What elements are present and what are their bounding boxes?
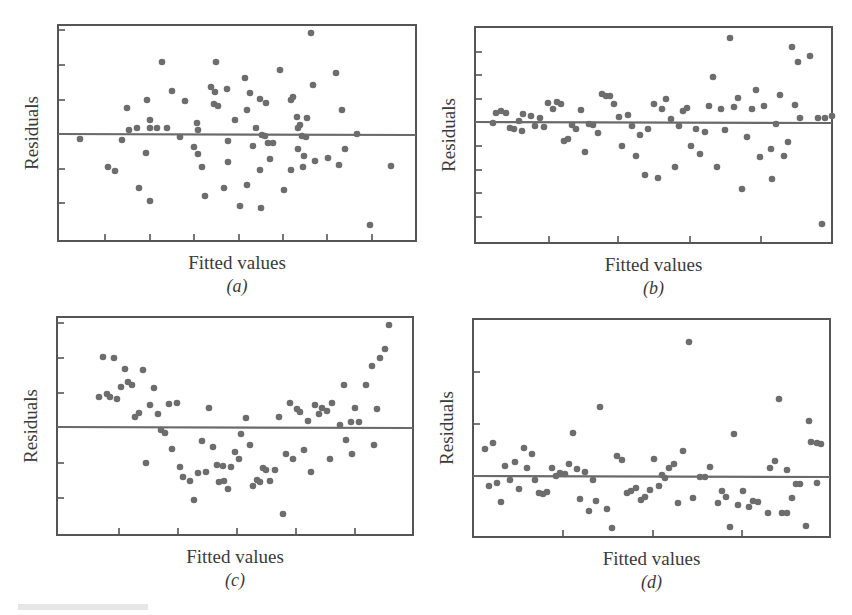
- data-point: [212, 89, 219, 96]
- data-point: [310, 82, 317, 89]
- data-point: [753, 87, 760, 94]
- data-point: [772, 458, 779, 465]
- panel-label: (a): [227, 276, 248, 297]
- data-point: [524, 465, 531, 472]
- data-point: [789, 44, 796, 51]
- panel-c: ResidualsFitted values(c): [20, 317, 413, 591]
- data-point: [136, 410, 143, 417]
- data-point: [272, 467, 279, 474]
- data-point: [577, 496, 584, 503]
- data-point: [642, 494, 649, 501]
- data-point: [629, 123, 636, 130]
- data-point: [388, 163, 395, 170]
- data-point: [511, 126, 518, 133]
- data-point: [213, 59, 220, 66]
- data-point: [597, 404, 604, 411]
- data-point: [647, 487, 654, 494]
- data-point: [702, 129, 709, 136]
- data-point: [595, 130, 602, 137]
- data-point: [270, 140, 277, 147]
- data-point: [144, 97, 151, 104]
- data-point: [324, 408, 331, 415]
- data-point: [544, 489, 551, 496]
- x-axis-label: Fitted values: [603, 548, 701, 569]
- data-point: [312, 158, 319, 165]
- data-point: [482, 446, 489, 453]
- data-point: [663, 96, 670, 103]
- data-point: [562, 471, 569, 478]
- data-point: [154, 125, 161, 132]
- data-point: [305, 418, 312, 425]
- data-point: [822, 115, 829, 122]
- data-point: [210, 444, 217, 451]
- plot-frame: [57, 317, 413, 535]
- data-point: [276, 414, 283, 421]
- data-point: [502, 463, 509, 470]
- data-point: [225, 138, 232, 145]
- data-point: [242, 75, 249, 82]
- data-point: [206, 405, 213, 412]
- data-point: [339, 107, 346, 114]
- data-point: [537, 115, 544, 122]
- data-point: [194, 120, 201, 127]
- data-point: [761, 103, 768, 110]
- data-point: [731, 431, 738, 438]
- data-point: [702, 474, 709, 481]
- data-point: [180, 474, 187, 481]
- data-point: [609, 525, 616, 532]
- data-point: [797, 481, 804, 488]
- data-point: [768, 146, 775, 153]
- data-point: [374, 406, 381, 413]
- data-point: [671, 461, 678, 468]
- data-point: [722, 127, 729, 134]
- data-point: [593, 498, 600, 505]
- data-point: [604, 506, 611, 513]
- data-point: [731, 104, 738, 111]
- data-point: [220, 463, 227, 470]
- data-point: [645, 126, 652, 133]
- data-point: [371, 442, 378, 449]
- data-point: [203, 469, 210, 476]
- data-point: [354, 131, 361, 138]
- data-point: [744, 134, 751, 141]
- data-point: [316, 411, 323, 418]
- data-point: [177, 464, 184, 471]
- y-axis-label: Residuals: [436, 391, 457, 465]
- data-point: [308, 469, 315, 476]
- zero-reference-line: [473, 476, 830, 477]
- data-point: [143, 460, 150, 467]
- data-point: [250, 483, 257, 490]
- data-point: [169, 88, 176, 95]
- data-point: [656, 483, 663, 490]
- data-point: [693, 126, 700, 133]
- data-point: [228, 464, 235, 471]
- data-point: [247, 442, 254, 449]
- data-point: [541, 124, 548, 131]
- panel-b: ResidualsFitted values(b): [438, 27, 835, 299]
- data-point: [719, 488, 726, 495]
- data-point: [243, 415, 250, 422]
- data-point: [795, 59, 802, 66]
- data-point: [490, 440, 497, 447]
- data-point: [267, 478, 274, 485]
- data-point: [503, 110, 510, 117]
- data-point: [77, 136, 84, 143]
- data-point: [174, 400, 181, 407]
- data-point: [792, 102, 799, 109]
- panel-label: (d): [641, 572, 662, 593]
- data-point: [516, 486, 523, 493]
- data-point: [352, 405, 359, 412]
- data-point: [301, 153, 308, 160]
- data-point: [619, 143, 626, 150]
- data-point: [369, 363, 376, 370]
- plot-frame: [58, 25, 416, 241]
- panel-a: ResidualsFitted values(a): [21, 25, 416, 297]
- data-point: [386, 322, 393, 329]
- data-point: [169, 446, 176, 453]
- data-point: [611, 101, 618, 108]
- data-point: [767, 465, 774, 472]
- data-point: [164, 125, 171, 132]
- data-point: [815, 115, 822, 122]
- data-point: [290, 94, 297, 101]
- data-point: [633, 485, 640, 492]
